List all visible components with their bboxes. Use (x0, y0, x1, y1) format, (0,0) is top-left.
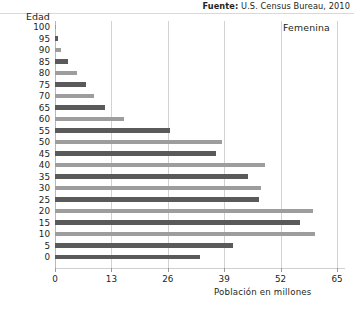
y-axis-tick-label: 20 (26, 206, 50, 216)
y-axis-tick-label: 65 (26, 103, 50, 113)
bar (55, 117, 124, 122)
bar (55, 243, 233, 248)
x-axis-tick (337, 268, 338, 272)
bar (55, 197, 259, 202)
y-axis-tick-label: 70 (26, 91, 50, 101)
x-axis-tick-label: 39 (219, 274, 230, 284)
bar (55, 163, 265, 168)
bar (55, 186, 261, 191)
bar (55, 174, 248, 179)
population-pyramid-chart: Fuente: U.S. Census Bureau, 2010 Edad Fe… (0, 0, 354, 310)
x-gridline (337, 21, 338, 268)
y-axis-tick-label: 15 (26, 218, 50, 228)
y-axis-tick-label: 40 (26, 160, 50, 170)
bar (55, 25, 56, 30)
x-axis-tick (111, 268, 112, 272)
bar (55, 140, 222, 145)
y-axis-tick-label: 0 (26, 252, 50, 262)
bar (55, 220, 300, 225)
x-axis-tick-label: 13 (106, 274, 117, 284)
bar (55, 71, 77, 76)
x-axis-title: Población en millones (214, 287, 311, 297)
x-axis-tick-label: 26 (162, 274, 173, 284)
bar (55, 59, 68, 64)
y-axis-tick-label: 50 (26, 137, 50, 147)
x-axis-tick-label: 0 (52, 274, 58, 284)
y-axis-tick-label: 10 (26, 229, 50, 239)
bar (55, 232, 315, 237)
x-axis-line (55, 268, 345, 269)
y-axis-title: Edad (26, 11, 50, 22)
bar (55, 151, 216, 156)
x-axis-tick-label: 52 (275, 274, 286, 284)
bar (55, 36, 58, 41)
y-axis-tick-label: 80 (26, 68, 50, 78)
y-axis-tick-label: 30 (26, 183, 50, 193)
y-axis-tick-label: 55 (26, 126, 50, 136)
x-axis-tick (281, 268, 282, 272)
y-axis-tick-label: 5 (26, 241, 50, 251)
y-axis-tick-label: 95 (26, 34, 50, 44)
source-label: Fuente: (203, 1, 239, 11)
source-attribution: Fuente: U.S. Census Bureau, 2010 (203, 1, 351, 11)
x-axis-tick (168, 268, 169, 272)
x-axis-tick-label: 65 (331, 274, 342, 284)
plot-area (55, 21, 337, 268)
bar (55, 128, 170, 133)
y-axis-tick-label: 85 (26, 57, 50, 67)
y-axis-tick-label: 60 (26, 114, 50, 124)
y-axis-tick-label: 90 (26, 45, 50, 55)
x-axis-tick (55, 268, 56, 272)
bar (55, 94, 94, 99)
x-axis-tick (224, 268, 225, 272)
y-axis-tick-label: 100 (26, 22, 50, 32)
bar (55, 82, 86, 87)
y-axis-tick-label: 35 (26, 172, 50, 182)
source-text: U.S. Census Bureau, 2010 (241, 1, 350, 11)
bar (55, 255, 200, 260)
y-axis-tick-label: 45 (26, 149, 50, 159)
bar (55, 48, 61, 53)
y-axis-tick-label: 25 (26, 195, 50, 205)
bar (55, 209, 313, 214)
header-divider (0, 13, 354, 14)
y-axis-tick-label: 75 (26, 80, 50, 90)
bar (55, 105, 105, 110)
